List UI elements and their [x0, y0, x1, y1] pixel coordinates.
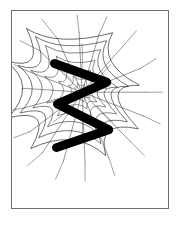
artwork-background: [12, 11, 168, 208]
picture-frame: [11, 10, 169, 209]
screenshot-page: Spider web with bold zigzag stroke Hand …: [0, 0, 182, 226]
artwork-canvas: [12, 11, 168, 208]
artwork-caption: Hand drawn spider web overlaid by a thic…: [0, 0, 1, 1]
page-title: Spider web with bold zigzag stroke: [0, 0, 1, 1]
